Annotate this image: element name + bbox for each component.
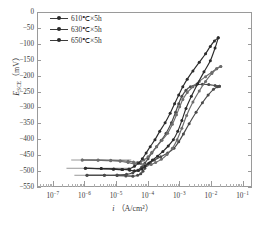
- data-point: [125, 173, 128, 176]
- y-tick-mark: [248, 12, 252, 13]
- legend-item-650[interactable]: 650℃×5h: [50, 35, 122, 46]
- data-point: [198, 89, 201, 92]
- curve-reverse: [87, 84, 219, 175]
- x-tick-label: 10−7: [38, 189, 68, 201]
- x-minor-tick: [40, 184, 41, 187]
- y-tick-mark: [248, 171, 252, 172]
- y-tick-mark: [248, 76, 252, 77]
- x-minor-tick: [163, 184, 164, 187]
- data-point: [131, 175, 134, 178]
- data-point: [127, 161, 130, 164]
- y-tick-mark: [37, 76, 41, 77]
- data-point: [204, 80, 207, 83]
- data-point: [140, 167, 143, 170]
- x-minor-tick: [220, 184, 221, 187]
- x-tick-mark: [179, 181, 180, 187]
- x-tick-mark: [148, 181, 149, 187]
- data-point: [100, 167, 103, 170]
- x-minor-tick: [143, 184, 144, 187]
- legend-item-610[interactable]: 610℃×5h: [50, 13, 122, 24]
- data-point: [180, 95, 183, 98]
- x-minor-tick: [77, 184, 78, 187]
- legend-marker-icon: [50, 25, 68, 34]
- data-point: [202, 70, 205, 73]
- y-tick-label: −450: [0, 151, 34, 159]
- data-point: [186, 78, 189, 81]
- legend-label: 650℃×5h: [68, 36, 102, 45]
- x-tick-mark: [116, 181, 117, 187]
- data-point: [119, 160, 122, 163]
- y-tick-mark: [37, 187, 41, 188]
- x-minor-tick: [172, 184, 173, 187]
- data-point: [154, 161, 157, 164]
- data-point: [169, 112, 172, 115]
- x-minor-tick: [100, 184, 101, 187]
- data-point: [139, 172, 142, 175]
- y-tick-mark: [248, 123, 252, 124]
- data-point: [178, 105, 181, 108]
- data-point: [97, 159, 100, 162]
- data-point: [188, 122, 191, 125]
- data-point: [184, 107, 187, 110]
- x-minor-tick: [80, 184, 81, 187]
- data-point: [161, 150, 164, 153]
- data-point: [143, 165, 146, 168]
- x-minor-tick: [131, 184, 132, 187]
- data-point: [171, 147, 174, 150]
- data-point: [149, 145, 152, 148]
- data-point: [112, 168, 115, 171]
- data-point: [190, 95, 193, 98]
- x-minor-tick: [141, 184, 142, 187]
- data-point: [213, 40, 216, 43]
- data-point: [191, 85, 194, 88]
- y-tick-mark: [248, 155, 252, 156]
- data-point: [150, 151, 153, 154]
- y-tick-mark: [37, 155, 41, 156]
- data-point: [103, 174, 106, 177]
- y-tick-label: −350: [0, 119, 34, 127]
- y-tick-mark: [248, 60, 252, 61]
- y-tick-label: −100: [0, 40, 34, 48]
- y-tick-label: −50: [0, 24, 34, 32]
- x-minor-tick: [72, 184, 73, 187]
- data-point: [214, 47, 217, 50]
- y-tick-mark: [37, 92, 41, 93]
- x-minor-tick: [230, 184, 231, 187]
- data-point: [155, 145, 158, 148]
- data-point: [136, 174, 139, 177]
- x-tick-label: 10−4: [133, 189, 163, 201]
- y-tick-mark: [248, 187, 252, 188]
- y-tick-mark: [37, 171, 41, 172]
- data-point: [207, 94, 210, 97]
- data-point: [176, 138, 179, 141]
- data-point: [201, 101, 204, 104]
- legend-item-630[interactable]: 630℃×5h: [50, 24, 122, 35]
- y-tick-mark: [248, 139, 252, 140]
- x-minor-tick: [46, 184, 47, 187]
- legend-label: 630℃×5h: [68, 25, 102, 34]
- data-point: [166, 153, 169, 156]
- data-point: [219, 65, 222, 68]
- data-point: [198, 61, 201, 64]
- series-630℃×5h: [81, 65, 222, 167]
- data-point: [166, 132, 169, 135]
- data-point: [204, 52, 207, 55]
- data-point: [160, 158, 163, 161]
- data-point: [81, 159, 84, 162]
- data-point: [180, 119, 183, 122]
- data-point: [171, 123, 174, 126]
- data-point: [147, 155, 150, 158]
- x-tick-label: 10−6: [69, 189, 99, 201]
- data-point: [120, 168, 123, 171]
- data-point: [137, 169, 140, 172]
- data-point: [151, 159, 154, 162]
- x-tick-mark: [243, 181, 244, 187]
- data-point: [210, 71, 213, 74]
- x-minor-tick: [170, 184, 171, 187]
- x-minor-tick: [204, 184, 205, 187]
- figure-container: ESCE（mV） i （A/cm²） 610℃×5h 630℃×5h 650℃×…: [0, 0, 265, 227]
- y-tick-label: −300: [0, 103, 34, 111]
- x-minor-tick: [103, 184, 104, 187]
- data-point: [86, 174, 89, 177]
- x-minor-tick: [236, 184, 237, 187]
